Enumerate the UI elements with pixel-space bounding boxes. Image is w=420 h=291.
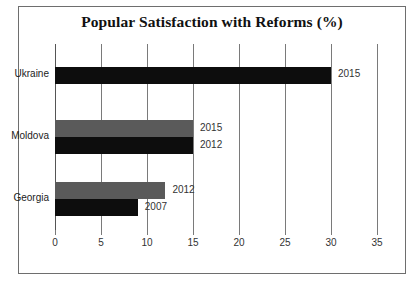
bar-value-label-ukraine-2015: 2015 [338, 68, 360, 79]
x-tick-15 [193, 230, 194, 235]
bar-ukraine-2015 [55, 67, 331, 84]
x-tick-label-5: 5 [86, 237, 116, 248]
x-tick-30 [331, 230, 332, 235]
gridline-30 [331, 44, 332, 230]
bar-georgia-2007 [55, 199, 138, 216]
x-tick-label-25: 25 [270, 237, 300, 248]
x-tick-0 [55, 230, 56, 235]
plot-area: 05101520253035Ukraine2015Moldova20152012… [55, 44, 377, 230]
x-tick-label-15: 15 [178, 237, 208, 248]
category-label-ukraine: Ukraine [0, 68, 49, 79]
chart-title: Popular Satisfaction with Reforms (%) [18, 13, 406, 31]
category-label-georgia: Georgia [0, 192, 49, 203]
bar-value-label-georgia-2012: 2012 [172, 184, 194, 195]
x-tick-label-35: 35 [362, 237, 392, 248]
bar-value-label-georgia-2007: 2007 [145, 201, 167, 212]
bar-moldova-2015 [55, 120, 193, 137]
x-tick-20 [239, 230, 240, 235]
x-tick-label-20: 20 [224, 237, 254, 248]
bar-value-label-moldova-2012: 2012 [200, 139, 222, 150]
bar-value-label-moldova-2015: 2015 [200, 122, 222, 133]
gridline-35 [377, 44, 378, 230]
category-label-moldova: Moldova [0, 130, 49, 141]
x-tick-label-10: 10 [132, 237, 162, 248]
bar-moldova-2012 [55, 137, 193, 154]
x-tick-5 [101, 230, 102, 235]
bar-georgia-2012 [55, 182, 165, 199]
x-tick-25 [285, 230, 286, 235]
x-tick-label-30: 30 [316, 237, 346, 248]
x-tick-10 [147, 230, 148, 235]
x-tick-35 [377, 230, 378, 235]
x-tick-label-0: 0 [40, 237, 70, 248]
chart-figure: Popular Satisfaction with Reforms (%) 05… [0, 0, 420, 291]
